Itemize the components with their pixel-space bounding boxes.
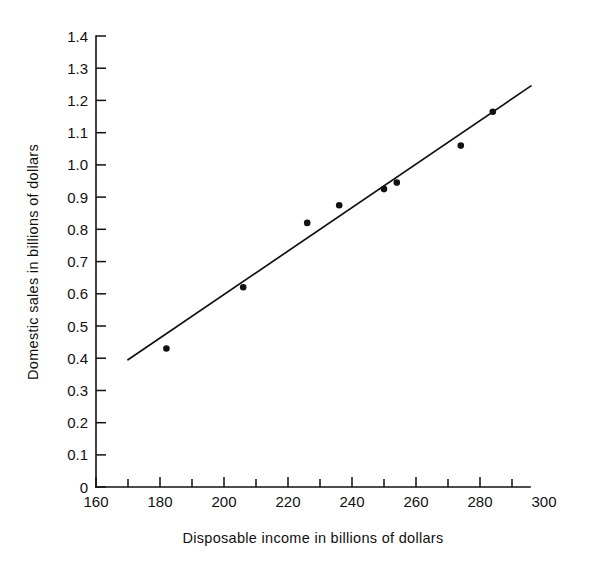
x-tick-label: 240 [339,493,364,510]
y-tick-label: 0.4 [67,350,88,367]
data-point [458,142,465,149]
data-point [163,345,170,352]
data-points-group [163,109,496,352]
y-tick-label: 0.6 [67,285,88,302]
y-tick-label: 0.9 [67,189,88,206]
x-tick-label: 260 [403,493,428,510]
x-tick-label: 280 [467,493,492,510]
y-tick-label: 0.1 [67,446,88,463]
y-tick-label: 1.3 [67,60,88,77]
chart-canvas: 1.4 1.3 1.2 1.1 1.0 0.9 0.8 0.7 0.6 0.5 … [0,0,603,571]
y-tick-label: 0.7 [67,253,88,270]
y-axis-title: Domestic sales in billions of dollars [25,144,41,380]
x-axis-title: Disposable income in billions of dollars [182,530,443,546]
y-tick-label: 1.2 [67,92,88,109]
x-axis-tick-labels: 160 180 200 220 240 260 280 300 [83,493,556,510]
x-tick-label: 180 [147,493,172,510]
x-axis-ticks [96,477,512,487]
data-point [336,202,343,209]
y-tick-label: 0.8 [67,221,88,238]
y-tick-label: 0.5 [67,318,88,335]
y-tick-label: 0.2 [67,414,88,431]
y-tick-label: 0.3 [67,382,88,399]
data-point [394,179,401,186]
fitted-trend-line [128,86,531,360]
scatter-plot-figure: 1.4 1.3 1.2 1.1 1.0 0.9 0.8 0.7 0.6 0.5 … [0,0,603,571]
y-axis-ticks [96,36,106,487]
y-tick-label: 1.0 [67,156,88,173]
y-axis-tick-labels: 1.4 1.3 1.2 1.1 1.0 0.9 0.8 0.7 0.6 0.5 … [67,28,88,496]
x-tick-label: 160 [83,493,108,510]
x-tick-label: 200 [211,493,236,510]
data-point [304,220,311,227]
y-tick-label: 1.1 [67,124,88,141]
data-point [381,186,388,193]
x-tick-label: 300 [531,493,556,510]
data-point [490,109,497,116]
x-tick-label: 220 [275,493,300,510]
y-tick-label: 1.4 [67,28,88,45]
data-point [240,284,247,291]
